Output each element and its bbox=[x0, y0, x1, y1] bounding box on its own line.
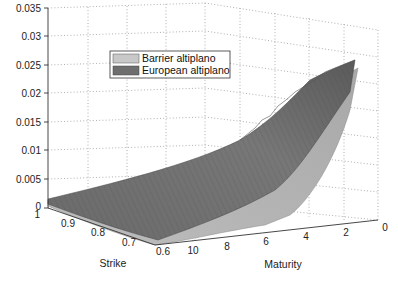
svg-text:European altiplano: European altiplano bbox=[142, 64, 230, 76]
svg-text:6: 6 bbox=[263, 236, 269, 247]
legend-item-barrier: Barrier altiplano bbox=[113, 52, 216, 64]
legend: Barrier altiplano European altiplano bbox=[110, 51, 230, 78]
svg-text:Barrier altiplano: Barrier altiplano bbox=[142, 52, 216, 64]
z-tick-labels: 0.035 0.03 0.025 0.02 0.015 0.01 0.005 0 bbox=[16, 3, 41, 212]
strike-axis-label: Strike bbox=[100, 257, 127, 269]
legend-item-european: European altiplano bbox=[113, 64, 230, 76]
svg-text:0.7: 0.7 bbox=[122, 237, 136, 248]
svg-text:0.015: 0.015 bbox=[16, 117, 41, 128]
european-surface bbox=[48, 60, 355, 240]
svg-text:0.025: 0.025 bbox=[16, 60, 41, 71]
svg-text:0.03: 0.03 bbox=[22, 31, 42, 42]
svg-text:10: 10 bbox=[187, 245, 199, 256]
maturity-axis-label: Maturity bbox=[264, 258, 302, 270]
svg-text:8: 8 bbox=[224, 241, 230, 252]
svg-text:1: 1 bbox=[34, 209, 40, 220]
legend-swatch-european bbox=[113, 66, 139, 75]
svg-text:0.005: 0.005 bbox=[16, 174, 41, 185]
svg-text:0.9: 0.9 bbox=[61, 218, 75, 229]
svg-text:0: 0 bbox=[382, 222, 388, 233]
svg-text:4: 4 bbox=[303, 231, 309, 242]
svg-text:0.035: 0.035 bbox=[16, 3, 41, 14]
svg-text:2: 2 bbox=[343, 227, 349, 238]
svg-text:0.01: 0.01 bbox=[22, 145, 42, 156]
svg-text:0.6: 0.6 bbox=[156, 246, 170, 257]
svg-text:0.8: 0.8 bbox=[91, 227, 105, 238]
legend-swatch-barrier bbox=[113, 54, 139, 63]
svg-text:0.02: 0.02 bbox=[22, 88, 42, 99]
surface-plot: 0.035 0.03 0.025 0.02 0.015 0.01 0.005 0… bbox=[0, 0, 398, 281]
